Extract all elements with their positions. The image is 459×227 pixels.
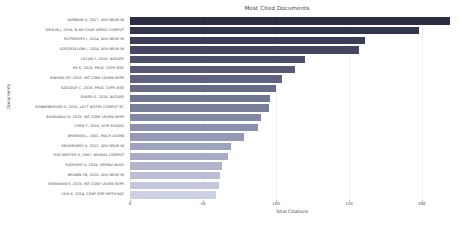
bar-row (130, 46, 454, 53)
bar (130, 37, 365, 44)
bar (130, 75, 282, 82)
bar-row (130, 191, 454, 198)
bar (130, 95, 270, 102)
bar (130, 162, 222, 169)
bar-row (130, 104, 454, 111)
bar (130, 85, 276, 92)
y-axis-tick-label: HOCHREITER S, 1997, NEURAL COMPUT (54, 154, 124, 158)
bar-row (130, 37, 454, 44)
y-axis-tick-label: VASWANI A, 2017, ADV NEUR IN (67, 19, 124, 23)
x-axis-tick-labels: 050100150200 (0, 201, 459, 209)
bar-row (130, 66, 454, 73)
x-axis-tick-mark (203, 200, 204, 202)
chart-title: Most Cited Documents (130, 5, 424, 11)
bar-row (130, 27, 454, 34)
y-axis-tick-label: HE K, 2016, PROC CVPR IEEE (73, 67, 124, 71)
chart-figure: Most Cited Documents Documents VASWANI A… (0, 0, 459, 227)
bar-row (130, 56, 454, 63)
bar-row (130, 182, 454, 189)
x-axis-tick-label: 150 (345, 201, 352, 206)
x-axis-tick-label: 50 (200, 201, 205, 206)
x-axis-tick-label: 100 (272, 201, 279, 206)
bar (130, 17, 450, 24)
x-axis-tick-mark (276, 200, 277, 202)
bar (130, 104, 269, 111)
y-axis-tick-label: CHEN T, 2016, ACM SIGKDD (74, 125, 124, 129)
bar (130, 191, 216, 198)
bar (130, 66, 295, 73)
bar-row (130, 153, 454, 160)
y-axis-tick-label: RADFORD A, 2019, OPENAI BLOG (65, 164, 124, 168)
bar-row (130, 75, 454, 82)
x-axis-title: Total Citations (130, 209, 454, 214)
y-axis-tick-label: SIMONYAN K, 2015, INT CONF LEARN REPR (48, 183, 124, 187)
bar (130, 114, 261, 121)
bar (130, 124, 258, 131)
x-axis-tick-label: 200 (418, 201, 425, 206)
bar (130, 172, 220, 179)
bar-row (130, 85, 454, 92)
x-axis-tick-label: 0 (129, 201, 131, 206)
bar (130, 133, 244, 140)
bar (130, 143, 231, 150)
y-axis-tick-labels: VASWANI A, 2017, ADV NEUR INDEVLIN J, 20… (0, 16, 127, 200)
bar-series (130, 16, 454, 200)
bar (130, 182, 219, 189)
y-axis-tick-label: GOODFELLOW I, 2014, ADV NEUR IN (60, 48, 124, 52)
bar-row (130, 95, 454, 102)
y-axis-tick-label: BROWN TB, 2020, ADV NEUR IN (68, 174, 124, 178)
bar (130, 153, 228, 160)
bar-row (130, 17, 454, 24)
x-axis-tick-mark (349, 200, 350, 202)
bar-row (130, 143, 454, 150)
y-axis-tick-label: KRIZHEVSKY A, 2012, ADV NEUR IN (61, 145, 124, 149)
bar (130, 46, 359, 53)
x-axis-tick-mark (422, 200, 423, 202)
bar-row (130, 114, 454, 121)
bar-row (130, 172, 454, 179)
x-axis-tick-mark (130, 200, 131, 202)
y-axis-tick-label: BAHDANAU D, 2015, INT CONF LEARN REPR (46, 116, 124, 120)
y-axis-tick-label: RONNEBERGER O, 2015, LECT NOTES COMPUT S… (35, 106, 124, 110)
y-axis-tick-label: SUTSKEVER I, 2014, ADV NEUR IN (64, 38, 124, 42)
bar-row (130, 124, 454, 131)
bar (130, 27, 419, 34)
y-axis-tick-label: BREIMAN L, 2001, MACH LEARN (68, 135, 124, 139)
bar (130, 56, 305, 63)
y-axis-tick-label: KINGMA DP, 2015, INT CONF LEARN REPR (50, 77, 124, 81)
y-axis-tick-label: SILVER D, 2016, NATURE (80, 96, 124, 100)
y-axis-tick-label: CHO K, 2014, CONF EMP METH NAT (61, 193, 124, 197)
y-axis-tick-label: SZEGEDY C, 2015, PROC CVPR IEEE (61, 87, 124, 91)
bar-row (130, 133, 454, 140)
y-axis-tick-label: LECUN Y, 2015, NATURE (81, 58, 124, 62)
bar-row (130, 162, 454, 169)
plot-area (130, 16, 454, 200)
y-axis-tick-label: DEVLIN J, 2019, N AM CHAP ASSOC COMPUT (46, 29, 124, 33)
